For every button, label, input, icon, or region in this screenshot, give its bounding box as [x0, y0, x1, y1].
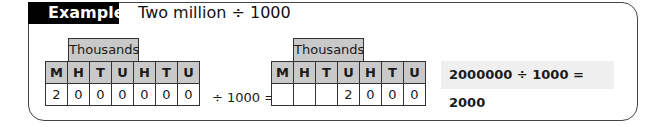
column-header: M [272, 62, 294, 84]
digit-cell: 0 [178, 84, 200, 106]
digit-cell: 0 [68, 84, 90, 106]
example-tab: Example [28, 2, 119, 24]
column-header: H [68, 62, 90, 84]
division-operation: ÷ 1000 = [212, 88, 275, 108]
digit-cell [316, 84, 338, 106]
left-column-headers: M H T U H T U [46, 62, 200, 84]
column-header: T [316, 62, 338, 84]
digit-cell: 2 [46, 84, 68, 106]
digit-cell: 0 [360, 84, 382, 106]
column-header: H [134, 62, 156, 84]
column-header: T [382, 62, 404, 84]
column-header: H [294, 62, 316, 84]
column-header: U [338, 62, 360, 84]
digit-cell: 0 [134, 84, 156, 106]
digit-cell: 0 [404, 84, 426, 106]
digit-cell: 0 [90, 84, 112, 106]
digit-cell [294, 84, 316, 106]
column-header: M [46, 62, 68, 84]
column-header: U [112, 62, 134, 84]
right-value-row: 2 0 0 0 [272, 84, 426, 106]
left-place-value-table: M H T U H T U 2 0 0 0 0 0 0 [45, 61, 200, 106]
digit-cell: 2 [338, 84, 360, 106]
digit-cell [272, 84, 294, 106]
digit-cell: 0 [156, 84, 178, 106]
answer-equation: 2000000 ÷ 1000 = 2000 [441, 61, 614, 89]
column-header: T [156, 62, 178, 84]
example-title: Two million ÷ 1000 [138, 3, 291, 23]
digit-cell: 0 [382, 84, 404, 106]
right-place-value-table: M H T U H T U 2 0 0 0 [271, 61, 426, 106]
column-header: H [360, 62, 382, 84]
left-thousands-header: Thousands [68, 38, 139, 61]
right-column-headers: M H T U H T U [272, 62, 426, 84]
left-value-row: 2 0 0 0 0 0 0 [46, 84, 200, 106]
column-header: T [90, 62, 112, 84]
column-header: U [178, 62, 200, 84]
digit-cell: 0 [112, 84, 134, 106]
right-thousands-header: Thousands [293, 38, 364, 61]
column-header: U [404, 62, 426, 84]
